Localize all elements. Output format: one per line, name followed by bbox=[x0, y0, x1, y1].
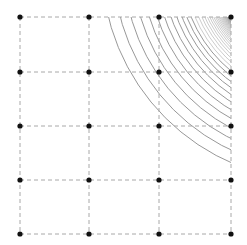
grid-dot bbox=[228, 123, 233, 128]
grid-dot bbox=[17, 14, 22, 19]
grid-dot bbox=[17, 123, 22, 128]
grid-dot bbox=[17, 177, 22, 182]
grid-dot bbox=[228, 69, 233, 74]
grid-dot bbox=[17, 231, 22, 236]
grid-dot bbox=[86, 231, 91, 236]
arc bbox=[211, 0, 246, 72]
grid-dot bbox=[17, 69, 22, 74]
diagram-canvas bbox=[0, 0, 246, 245]
grid-dot bbox=[156, 14, 161, 19]
arc bbox=[214, 0, 246, 69]
grid-dot bbox=[156, 177, 161, 182]
arc bbox=[191, 0, 246, 92]
concentric-arcs bbox=[102, 0, 246, 181]
grid-dot bbox=[86, 69, 91, 74]
arc bbox=[203, 0, 246, 80]
arc bbox=[207, 0, 246, 76]
arc bbox=[204, 0, 246, 79]
arc bbox=[162, 0, 246, 121]
grid-dot bbox=[228, 14, 233, 19]
grid-dot bbox=[86, 177, 91, 182]
grid-dot bbox=[156, 123, 161, 128]
grid-dot bbox=[228, 177, 233, 182]
grid-dot bbox=[156, 69, 161, 74]
grid-dot bbox=[86, 14, 91, 19]
arc bbox=[177, 0, 246, 106]
arc bbox=[196, 0, 246, 87]
arc bbox=[188, 0, 246, 95]
arc bbox=[168, 0, 247, 116]
grid-dot bbox=[86, 123, 91, 128]
grid-dot bbox=[228, 231, 233, 236]
grid-dot bbox=[156, 231, 161, 236]
